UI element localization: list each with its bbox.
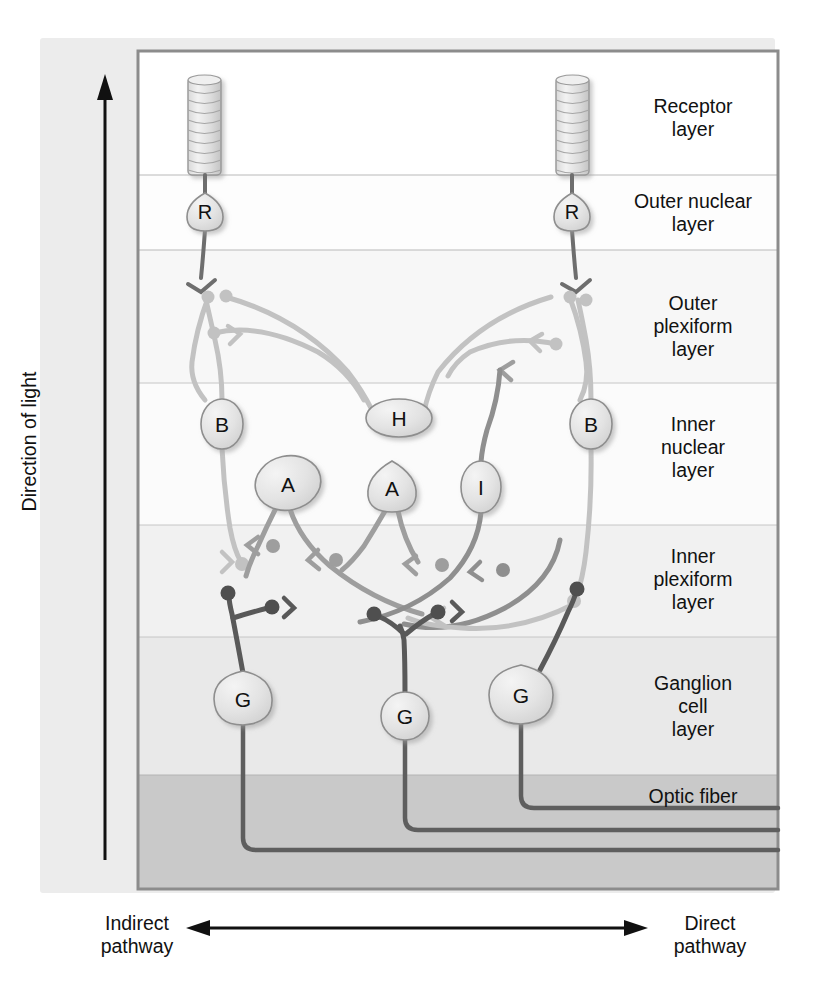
layer-label-inner-nuclear-line2: nuclear (618, 436, 768, 459)
layer-label-ganglion-cell-line2: cell (618, 695, 768, 718)
svg-text:I: I (478, 476, 484, 499)
synapse-amacrine-left-1 (266, 539, 280, 553)
synapse-bipolar-right-2 (580, 294, 593, 307)
layer-label-inner-plexiform: Inner plexiform layer (618, 545, 768, 614)
synapse-bipolar-right-1 (564, 291, 577, 304)
layer-label-ganglion-cell: Ganglion cell layer (618, 672, 768, 741)
layer-label-outer-nuclear-line2: layer (618, 213, 768, 236)
synapse-interplexiform-1 (435, 558, 449, 572)
synapse-ipl-sweep-right (496, 563, 510, 577)
retina-diagram-figure: R R B B H A (0, 0, 815, 985)
pathway-double-arrow (186, 920, 648, 936)
svg-text:A: A (385, 477, 399, 500)
svg-text:H: H (391, 407, 406, 430)
svg-text:G: G (513, 684, 529, 707)
layer-label-outer-plexiform: Outer plexiform layer (618, 292, 768, 361)
svg-text:A: A (281, 473, 295, 496)
synapse-ganglion-middle-a (367, 607, 382, 622)
rod-outer-segment-left (188, 75, 221, 175)
layer-label-optic-fiber-line1: Optic fiber (618, 785, 768, 808)
svg-text:B: B (584, 413, 598, 436)
layer-label-ganglion-cell-line3: layer (618, 718, 768, 741)
layer-label-receptor: Receptor layer (618, 95, 768, 141)
layer-label-inner-nuclear-line1: Inner (618, 413, 768, 436)
svg-text:R: R (198, 201, 212, 223)
layer-label-inner-nuclear-line3: layer (618, 459, 768, 482)
synapse-ganglion-left-b (265, 600, 280, 615)
layer-label-outer-plexiform-line2: plexiform (618, 315, 768, 338)
layer-label-optic-fiber: Optic fiber (618, 785, 768, 808)
indirect-pathway-line2: pathway (72, 935, 202, 958)
layer-label-receptor-line2: layer (618, 118, 768, 141)
layer-label-outer-plexiform-line3: layer (618, 338, 768, 361)
svg-text:G: G (235, 688, 251, 711)
synapse-ganglion-right (570, 582, 585, 597)
layer-label-outer-nuclear: Outer nuclear layer (618, 190, 768, 236)
direct-pathway-line2: pathway (645, 935, 775, 958)
synapse-ganglion-left (221, 586, 236, 601)
layer-label-inner-plexiform-line2: plexiform (618, 568, 768, 591)
synapse-ganglion-middle-b (431, 605, 446, 620)
layer-label-inner-plexiform-line1: Inner (618, 545, 768, 568)
synapse-bipolar-left-1 (202, 291, 215, 304)
indirect-pathway-label: Indirect pathway (72, 912, 202, 958)
layer-label-inner-nuclear: Inner nuclear layer (618, 413, 768, 482)
synapse-opl-right-2 (550, 338, 563, 351)
svg-text:B: B (215, 413, 229, 436)
synapse-amacrine-right-1 (329, 553, 343, 567)
direction-of-light-arrow (97, 74, 113, 860)
svg-text:R: R (565, 201, 579, 223)
rod-outer-segment-right (556, 75, 589, 175)
layer-label-ganglion-cell-line1: Ganglion (618, 672, 768, 695)
layer-label-outer-nuclear-line1: Outer nuclear (618, 190, 768, 213)
direct-pathway-label: Direct pathway (645, 912, 775, 958)
direct-pathway-line1: Direct (645, 912, 775, 935)
synapse-opl-left-2 (208, 327, 221, 340)
direction-of-light-label: Direction of light (18, 327, 41, 557)
svg-text:G: G (397, 705, 413, 728)
layer-label-outer-plexiform-line1: Outer (618, 292, 768, 315)
indirect-pathway-line1: Indirect (72, 912, 202, 935)
synapse-horizontal-left (220, 290, 233, 303)
layer-label-inner-plexiform-line3: layer (618, 591, 768, 614)
layer-label-receptor-line1: Receptor (618, 95, 768, 118)
retina-diagram-svg: R R B B H A (0, 0, 815, 985)
